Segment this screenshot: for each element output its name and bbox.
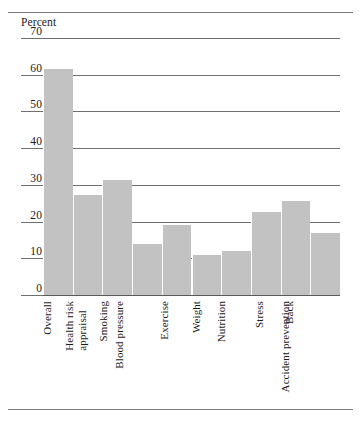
gridline (43, 38, 340, 39)
y-axis-tick-mark (21, 38, 43, 39)
x-axis-category-label: Nutrition (221, 299, 251, 407)
y-axis-tick-label: 50 (18, 99, 42, 110)
gridline (43, 185, 340, 186)
x-axis-baseline (43, 295, 340, 296)
y-axis-tick-mark (21, 222, 43, 223)
plot-area (43, 38, 340, 295)
bar (73, 195, 103, 295)
y-axis-tick-mark (21, 75, 43, 76)
bar (102, 180, 132, 295)
x-axis-category-label-line: Health risk (63, 301, 76, 351)
x-axis-category-label-line: Accident prevention (279, 301, 292, 392)
gridline (43, 148, 340, 149)
x-axis-category-labels: OverallHealth riskappraisalSmokingBlood … (43, 299, 340, 411)
x-axis-category-label-line: Overall (41, 301, 54, 335)
bar (221, 251, 251, 295)
x-axis-category-label: Stress (251, 299, 281, 407)
y-axis-tick-label: 10 (18, 246, 42, 257)
bar (162, 225, 192, 295)
bar (43, 69, 73, 295)
x-axis-category-label: Exercise (162, 299, 192, 407)
gridline (43, 111, 340, 112)
bar (132, 244, 162, 295)
y-axis-tick-label: 20 (18, 210, 42, 221)
x-axis-category-label-line: Blood pressure (113, 301, 126, 369)
y-axis-tick-mark (21, 295, 43, 296)
y-axis-title: Percent (21, 16, 56, 29)
bar-chart-figure: Percent 010203040506070 OverallHealth ri… (0, 0, 361, 426)
x-axis-category-label-line: Weight (190, 301, 203, 333)
y-axis-tick-label: 60 (18, 63, 42, 74)
x-axis-category-label-line: appraisal (75, 301, 88, 351)
x-axis-category-label-line: Exercise (157, 301, 170, 340)
y-axis-tick-mark (21, 185, 43, 186)
bar (310, 233, 340, 295)
y-axis-tick-mark (21, 148, 43, 149)
bar (251, 212, 281, 295)
y-axis-tick-label: 40 (18, 136, 42, 147)
x-axis-category-label: Accident prevention (310, 299, 340, 407)
gridline (43, 75, 340, 76)
y-axis-tick-mark (21, 111, 43, 112)
y-axis-tick-mark (21, 258, 43, 259)
x-axis-category-label-line: Nutrition (215, 301, 228, 342)
bar (281, 201, 311, 295)
y-axis-tick-label: 30 (18, 173, 42, 184)
x-axis-category-label-line: Stress (252, 301, 265, 328)
bar (192, 255, 222, 295)
top-border-rule (8, 12, 353, 13)
x-axis-category-label-line: Smoking (97, 301, 110, 341)
y-axis-tick-label: 0 (18, 283, 42, 294)
